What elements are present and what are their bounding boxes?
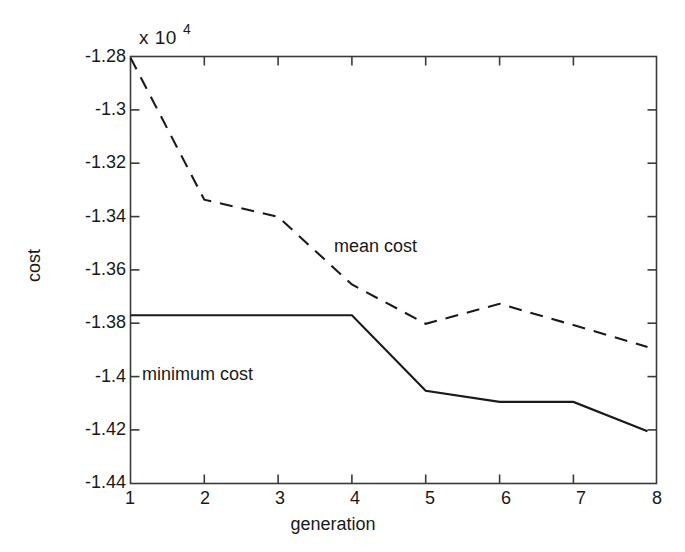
chart-plot-svg xyxy=(0,0,685,552)
plot-frame xyxy=(131,57,657,484)
y-axis-ticks xyxy=(131,110,657,430)
series-mean-cost-line xyxy=(131,58,648,347)
chart-figure: x 104 cost -1.28 -1.3 -1.32 -1.34 -1.36 … xyxy=(0,0,685,552)
x-axis-ticks xyxy=(204,57,573,484)
series-minimum-cost-line xyxy=(131,315,648,431)
